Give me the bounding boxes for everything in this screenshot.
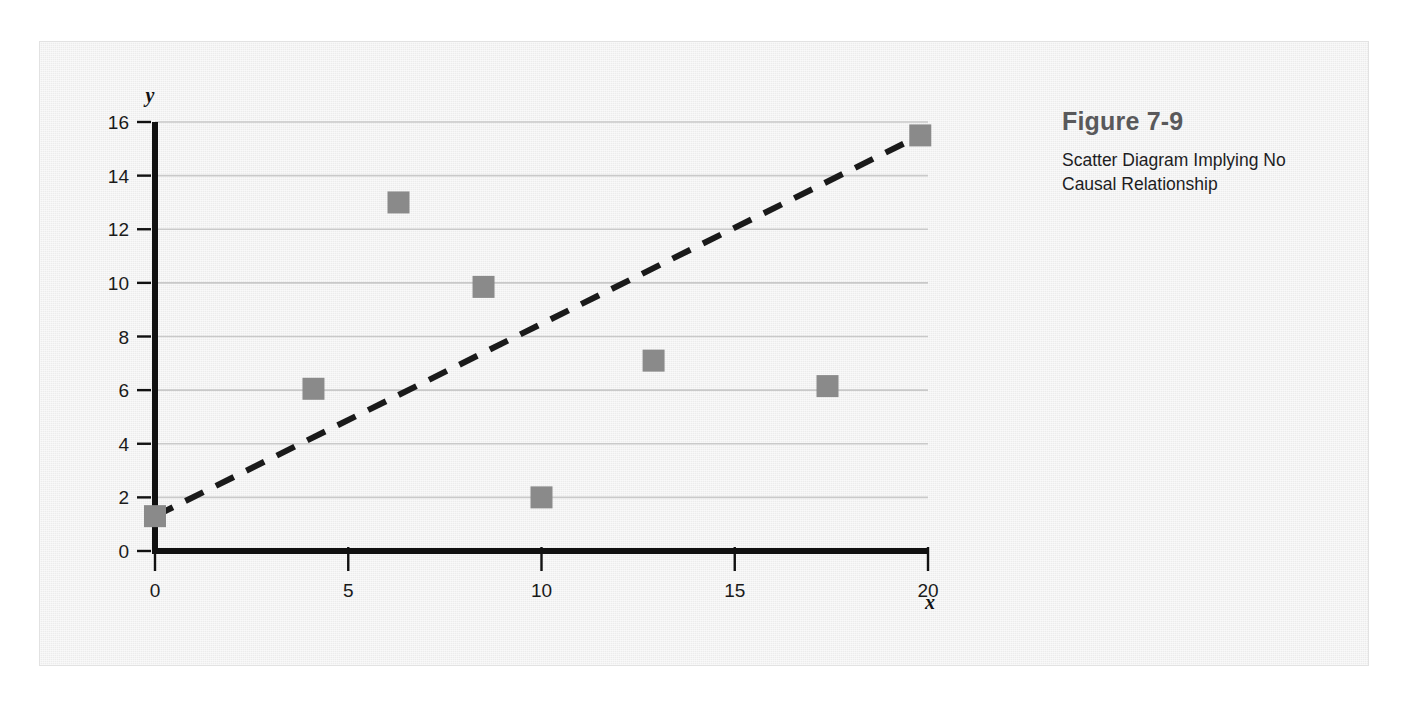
x-tick-label: 5 — [343, 580, 354, 601]
data-point-marker — [817, 375, 839, 397]
data-point-marker — [909, 124, 931, 146]
plot-svg: 0246810121416 05101520 y x — [40, 42, 1050, 665]
trend-line — [155, 135, 920, 516]
y-tick-label: 16 — [108, 112, 129, 133]
x-tick-label: 15 — [724, 580, 745, 601]
y-tick-label: 10 — [108, 273, 129, 294]
y-axis-label: y — [144, 84, 155, 107]
figure-number: Figure 7-9 — [1062, 108, 1362, 136]
data-point-marker — [144, 505, 166, 527]
y-axis-ticks-group: 0246810121416 — [108, 112, 151, 562]
x-tick-label: 10 — [531, 580, 552, 601]
y-tick-label: 4 — [118, 434, 129, 455]
x-axis-ticks-group: 05101520 — [150, 547, 939, 601]
data-point-marker — [387, 191, 409, 213]
data-point-marker — [643, 350, 665, 372]
data-point-marker — [531, 486, 553, 508]
y-tick-label: 12 — [108, 219, 129, 240]
y-tick-label: 0 — [118, 541, 129, 562]
y-tick-label: 8 — [118, 327, 129, 348]
x-axis-label: x — [924, 591, 935, 613]
y-tick-label: 14 — [108, 166, 130, 187]
figure-page: 0246810121416 05101520 y x Figure 7-9 Sc… — [0, 0, 1409, 703]
scatter-plot: 0246810121416 05101520 y x — [40, 42, 1050, 665]
x-tick-label: 0 — [150, 580, 161, 601]
y-tick-label: 6 — [118, 380, 129, 401]
y-tick-label: 2 — [118, 487, 129, 508]
data-point-marker — [473, 276, 495, 298]
figure-panel: 0246810121416 05101520 y x Figure 7-9 Sc… — [40, 42, 1368, 665]
data-point-marker — [302, 378, 324, 400]
figure-caption-text: Scatter Diagram Implying No Causal Relat… — [1062, 148, 1312, 196]
gridlines-group — [155, 122, 928, 497]
figure-caption-block: Figure 7-9 Scatter Diagram Implying No C… — [1062, 108, 1362, 196]
